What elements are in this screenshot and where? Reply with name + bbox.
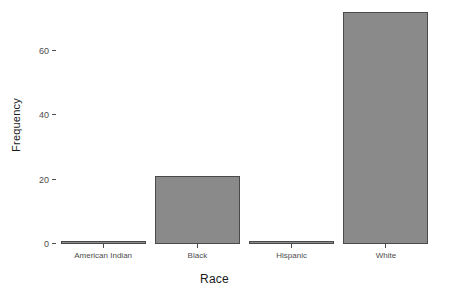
y-tick-text: 20	[39, 175, 49, 185]
x-tick-white: White	[326, 244, 446, 260]
y-tick-label: 60	[8, 45, 56, 57]
plot-panel	[56, 6, 433, 244]
x-tick-text: White	[376, 251, 396, 260]
x-tick-dash-icon	[291, 244, 292, 248]
bar-white[interactable]	[343, 12, 428, 244]
y-tick-label: 40	[8, 109, 56, 121]
x-tick-dash-icon	[197, 244, 198, 248]
x-axis-title-text: Race	[200, 272, 229, 286]
x-tick-dash-icon	[385, 244, 386, 248]
x-tick-text: Hispanic	[276, 251, 307, 260]
x-axis-title: Race	[0, 272, 449, 286]
x-tick-text: Black	[188, 251, 208, 260]
bar-chart: Frequency 0 20 40 60 American Indian Bla…	[0, 0, 449, 293]
y-tick-text: 40	[39, 110, 49, 120]
y-tick-label: 20	[8, 174, 56, 186]
y-tick-text: 60	[39, 46, 49, 56]
x-tick-text: American Indian	[74, 251, 132, 260]
bar-black[interactable]	[155, 176, 240, 244]
x-axis-ticks: American Indian Black Hispanic White	[56, 244, 433, 274]
x-tick-dash-icon	[103, 244, 104, 248]
